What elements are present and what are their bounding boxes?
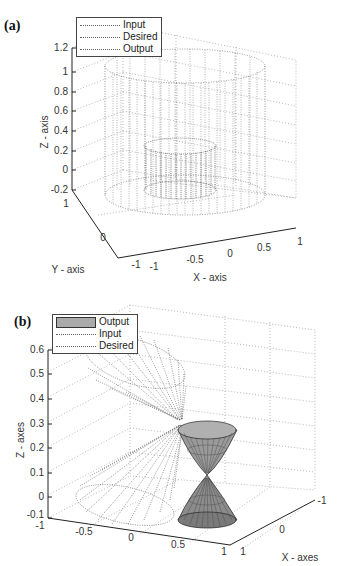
front-tick: 1 — [221, 546, 227, 557]
xtick: -1 — [150, 261, 159, 272]
ztick: 0 — [38, 491, 44, 502]
plot-b: 0.6 0.5 0.4 0.3 0.2 0.1 0 -0.1 -1 -0.5 0… — [0, 290, 339, 566]
legend-item-output: Output — [56, 316, 133, 328]
zlabel-b: Z - axes — [15, 422, 26, 458]
panel-a: (a) — [0, 0, 339, 285]
legend-item-desired: Desired — [80, 31, 157, 43]
plot-a: 1.2 1 0.8 0.6 0.4 0.2 0 -0.2 1 0 -1 -1 -… — [0, 0, 339, 285]
ytick: 0 — [100, 232, 106, 243]
ztick: 0.6 — [54, 105, 68, 116]
ztick: 0.8 — [54, 86, 68, 97]
side-tick: 1 — [240, 546, 246, 557]
xlabel-a: X - axis — [193, 272, 226, 283]
ztick: -0.1 — [27, 509, 45, 520]
dotted-line-swatch — [56, 346, 96, 347]
dotted-line-swatch — [80, 49, 120, 50]
front-tick: 0 — [128, 532, 134, 543]
xtick: 1 — [297, 236, 303, 247]
ztick: 0.2 — [54, 145, 68, 156]
xlabel-b: X - axes — [282, 552, 319, 563]
front-tick: -1 — [36, 520, 45, 531]
ztick: 0.4 — [30, 393, 44, 404]
legend-b: Output Input Desired — [52, 314, 138, 354]
ztick: 0 — [62, 164, 68, 175]
panel-b: (b) — [0, 290, 339, 566]
legend-item-input: Input — [80, 19, 157, 31]
ytick: 1 — [63, 198, 69, 209]
front-tick: -0.5 — [75, 526, 93, 537]
ztick: 0.3 — [30, 418, 44, 429]
side-tick: 0 — [279, 524, 285, 535]
ztick: -0.2 — [51, 184, 69, 195]
zlabel-a: Z - axis — [39, 116, 50, 149]
gray-patch-swatch — [56, 317, 96, 328]
xtick: 0.5 — [257, 242, 271, 253]
ylabel-a: Y - axis — [51, 264, 84, 275]
ytick: -1 — [132, 259, 141, 270]
front-tick: 0.5 — [171, 539, 185, 550]
ztick: 0.1 — [30, 467, 44, 478]
xtick: 0 — [227, 248, 233, 259]
dotted-line-swatch — [56, 334, 96, 335]
side-tick: -1 — [318, 495, 327, 506]
ztick: 0.4 — [54, 125, 68, 136]
ztick: 1.2 — [54, 42, 68, 53]
ztick: 0.2 — [30, 442, 44, 453]
xtick: -0.5 — [186, 254, 204, 265]
legend-a: Input Desired Output — [76, 17, 162, 57]
ztick: 1 — [62, 66, 68, 77]
legend-item-input: Input — [56, 328, 133, 340]
legend-item-output: Output — [80, 43, 157, 55]
ztick: 0.6 — [30, 344, 44, 355]
dotted-line-swatch — [80, 25, 120, 26]
dotted-line-swatch — [80, 37, 120, 38]
ztick: 0.5 — [30, 368, 44, 379]
legend-item-desired: Desired — [56, 340, 133, 352]
